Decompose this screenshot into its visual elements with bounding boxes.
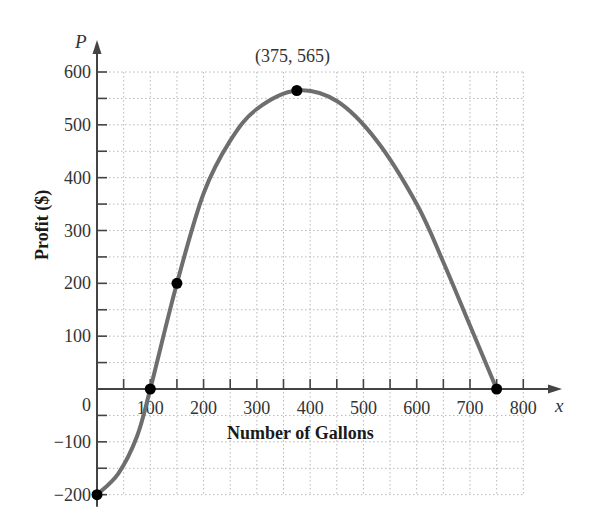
y-axis-title: Profit ($)	[32, 190, 53, 260]
y-tick-label: −100	[54, 432, 91, 452]
x-tick-label: 700	[457, 398, 484, 418]
x-axis-variable: x	[554, 395, 564, 416]
y-tick-label: 300	[64, 221, 91, 241]
data-point	[171, 278, 182, 289]
y-tick-label: 200	[64, 273, 91, 293]
y-axis-variable: P	[74, 31, 87, 52]
profit-chart: 100200300400500600700800−200−10001002003…	[0, 0, 591, 525]
data-point	[291, 85, 302, 96]
x-tick-label: 600	[403, 398, 430, 418]
x-tick-label: 400	[297, 398, 324, 418]
x-tick-label: 200	[190, 398, 217, 418]
y-tick-label: 100	[64, 326, 91, 346]
x-axis-arrow-icon	[548, 385, 562, 394]
data-point	[145, 384, 156, 395]
data-point	[92, 489, 103, 500]
x-tick-label: 300	[243, 398, 270, 418]
x-tick-label: 800	[510, 398, 537, 418]
vertex-annotation: (375, 565)	[255, 46, 330, 67]
y-tick-label: 400	[64, 168, 91, 188]
data-point	[491, 384, 502, 395]
y-tick-label: −200	[54, 485, 91, 505]
y-tick-label: 0	[82, 395, 91, 415]
y-tick-label: 600	[64, 62, 91, 82]
x-tick-label: 500	[350, 398, 377, 418]
y-axis-arrow-icon	[93, 40, 102, 54]
x-tick-label: 100	[137, 398, 164, 418]
x-axis-title: Number of Gallons	[227, 423, 374, 443]
y-tick-label: 500	[64, 115, 91, 135]
